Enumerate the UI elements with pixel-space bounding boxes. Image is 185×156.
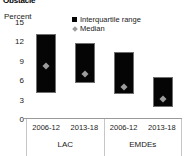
y-tick-12: 12 bbox=[2, 37, 24, 46]
x-tick-lac-period-1: 2006-12 bbox=[27, 123, 65, 132]
y-tick-0: 0 bbox=[2, 115, 24, 124]
x-group-lac-periods: 2006-12 2013-18 bbox=[27, 119, 104, 136]
x-tick-lac-period-2: 2013-18 bbox=[65, 123, 103, 132]
x-group-label-emdes: EMDEs bbox=[105, 140, 182, 149]
chart-title: Obstacle bbox=[3, 0, 35, 5]
x-group-emdes: 2006-12 2013-18 EMDEs bbox=[104, 119, 183, 156]
y-tick-3: 3 bbox=[2, 95, 24, 104]
y-tick-6: 6 bbox=[2, 76, 24, 85]
plot-area bbox=[26, 22, 182, 119]
x-group-label-lac: LAC bbox=[27, 140, 104, 149]
x-tick-emdes-period-2: 2013-18 bbox=[143, 123, 181, 132]
chart-figure: Obstacle Percent Interquartile range Med… bbox=[0, 0, 185, 156]
y-tick-9: 9 bbox=[2, 56, 24, 65]
x-tick-emdes-period-1: 2006-12 bbox=[105, 123, 143, 132]
y-axis-ticks: 15 12 9 6 3 0 bbox=[0, 22, 24, 119]
y-tick-15: 15 bbox=[2, 18, 24, 27]
x-group-lac: 2006-12 2013-18 LAC bbox=[26, 119, 104, 156]
x-group-emdes-periods: 2006-12 2013-18 bbox=[105, 119, 182, 136]
x-axis: 2006-12 2013-18 LAC 2006-12 2013-18 EMDE… bbox=[26, 119, 182, 156]
